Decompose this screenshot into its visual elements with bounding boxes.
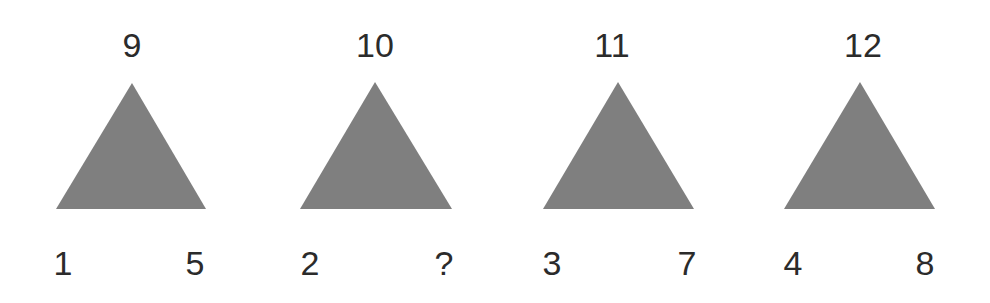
- triangle-3-right-number: 7: [678, 246, 697, 280]
- triangles-layer: [0, 0, 990, 303]
- triangle-1-top-number: 9: [123, 28, 142, 62]
- triangle-4: [784, 82, 935, 209]
- triangle-1-right-number: 5: [186, 246, 205, 280]
- triangle-2-left-number: 2: [301, 246, 320, 280]
- triangle-4-top-number: 12: [844, 28, 882, 62]
- triangle-1-left-number: 1: [54, 246, 73, 280]
- triangle-4-left-number: 4: [784, 246, 803, 280]
- triangle-2: [300, 82, 452, 209]
- triangle-2-top-number: 10: [356, 28, 394, 62]
- number-triangle-puzzle: 9 1 5 10 2 ? 11 3 7 12 4 8: [0, 0, 990, 303]
- triangle-3-top-number: 11: [594, 28, 629, 62]
- triangle-2-missing-number: ?: [435, 246, 454, 280]
- triangle-1: [56, 83, 206, 209]
- triangle-4-right-number: 8: [916, 246, 935, 280]
- triangle-3: [543, 82, 694, 209]
- triangle-3-left-number: 3: [543, 246, 562, 280]
